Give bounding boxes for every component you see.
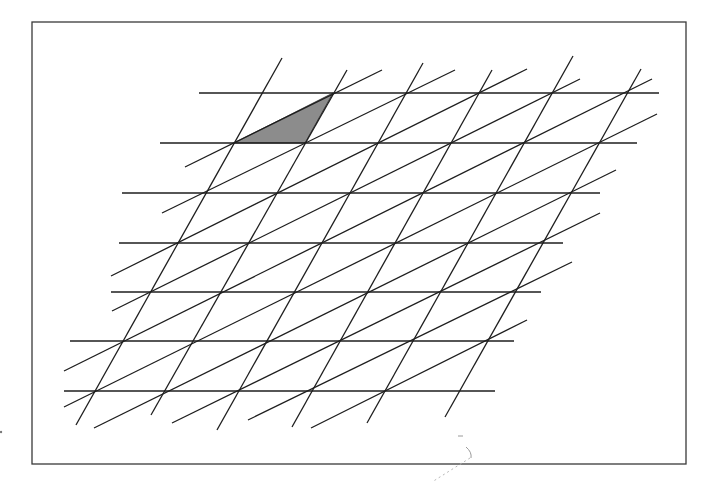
artifact-curve xyxy=(466,447,471,458)
shallow-line xyxy=(162,70,455,213)
lattice-figure xyxy=(0,0,715,490)
shallow-lines xyxy=(64,69,657,428)
shallow-line xyxy=(185,70,382,167)
horizontal-lines xyxy=(64,93,659,391)
shallow-line xyxy=(64,79,652,371)
steep-line xyxy=(367,56,573,423)
scan-artifacts xyxy=(0,431,471,482)
artifact-dotted-line xyxy=(432,458,470,482)
shallow-line xyxy=(94,170,616,428)
steep-line xyxy=(292,70,492,427)
artifact-speck xyxy=(0,431,2,433)
shallow-line xyxy=(112,79,580,311)
shallow-line xyxy=(64,114,657,407)
